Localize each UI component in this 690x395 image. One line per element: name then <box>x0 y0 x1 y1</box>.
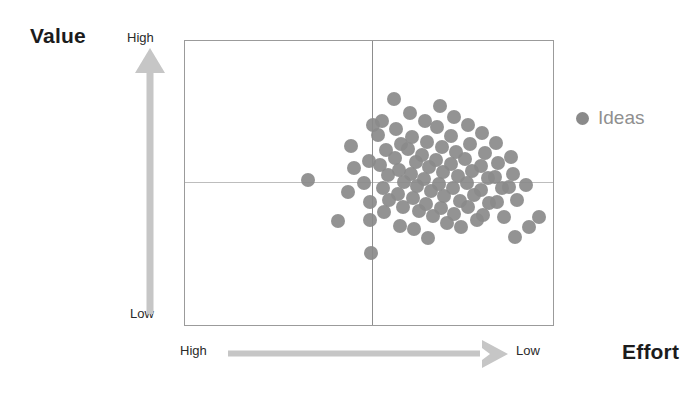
arrow-up-icon <box>134 46 166 314</box>
scatter-point <box>433 99 447 113</box>
plot-frame <box>184 40 554 326</box>
scatter-point <box>497 210 511 224</box>
scatter-point <box>454 220 468 234</box>
scatter-point <box>489 136 503 150</box>
scatter-point <box>430 120 444 134</box>
scatter-point <box>447 207 461 221</box>
scatter-point <box>421 231 435 245</box>
arrow-right-icon <box>228 338 510 370</box>
scatter-point <box>364 246 378 260</box>
x-axis-low-label: Low <box>516 343 540 358</box>
legend-marker-icon <box>576 112 589 125</box>
scatter-point <box>406 191 420 205</box>
scatter-point <box>491 156 505 170</box>
scatter-point <box>407 222 421 236</box>
scatter-point <box>344 139 358 153</box>
y-axis-title: Value <box>30 24 86 48</box>
scatter-point <box>387 92 401 106</box>
scatter-point <box>435 140 449 154</box>
scatter-point <box>463 137 477 151</box>
scatter-point <box>502 180 516 194</box>
scatter-point <box>377 205 391 219</box>
scatter-point <box>363 195 377 209</box>
scatter-point <box>363 213 377 227</box>
scatter-point <box>461 118 475 132</box>
scatter-point <box>341 185 355 199</box>
scatter-point <box>331 214 345 228</box>
legend: Ideas <box>576 107 644 129</box>
scatter-point <box>375 114 389 128</box>
scatter-point <box>510 193 524 207</box>
scatter-point <box>391 187 405 201</box>
scatter-point <box>401 142 415 156</box>
scatter-point <box>393 219 407 233</box>
scatter-point <box>461 200 475 214</box>
scatter-point <box>476 208 490 222</box>
x-axis-title: Effort <box>622 340 679 364</box>
legend-item-label: Ideas <box>598 107 644 129</box>
scatter-point <box>444 129 458 143</box>
scatter-point <box>347 161 361 175</box>
scatter-point <box>357 176 371 190</box>
scatter-point <box>504 150 518 164</box>
scatter-points-layer <box>185 41 553 325</box>
scatter-point <box>301 173 315 187</box>
scatter-point <box>371 128 385 142</box>
scatter-point <box>532 210 546 224</box>
y-axis-high-label: High <box>127 30 154 45</box>
scatter-point <box>474 183 488 197</box>
chart-canvas: Value High Low Effort High Low Ideas <box>0 0 690 395</box>
scatter-point <box>446 181 460 195</box>
scatter-point <box>519 178 533 192</box>
scatter-point <box>403 106 417 120</box>
scatter-point <box>389 122 403 136</box>
scatter-point <box>478 146 492 160</box>
scatter-point <box>490 195 504 209</box>
scatter-point <box>434 201 448 215</box>
scatter-point <box>508 230 522 244</box>
x-axis-high-label: High <box>180 343 207 358</box>
scatter-point <box>475 126 489 140</box>
scatter-point <box>447 110 461 124</box>
